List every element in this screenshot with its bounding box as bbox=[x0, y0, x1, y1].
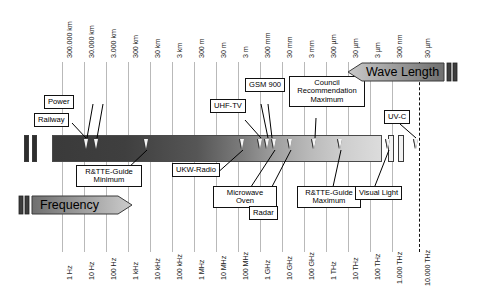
callout-uv-c[interactable]: UV-C bbox=[384, 110, 410, 124]
frequency-tick-label: 10 kHz bbox=[154, 258, 162, 280]
frequency-tick-label: 10 Hz bbox=[88, 262, 96, 280]
wavelength-tick-label: 3.000 km bbox=[110, 29, 118, 58]
bar-pointer-rtte-minimum bbox=[144, 139, 148, 149]
callout-ukw-radio[interactable]: UKW-Radio bbox=[172, 163, 220, 177]
bar-end-cap-left-2 bbox=[32, 135, 37, 162]
wavelength-tick-label: 30.000 km bbox=[88, 25, 96, 58]
frequency-tick-label: 1 MHz bbox=[198, 260, 206, 280]
wavelength-tick-label: 3 µm bbox=[374, 42, 382, 58]
callout-railway[interactable]: Railway bbox=[34, 113, 69, 127]
frequency-tick-label: 10 THz bbox=[352, 258, 360, 280]
frequency-tick-label: 1 THz bbox=[330, 261, 338, 280]
bar-pointer-microwave-oven bbox=[272, 139, 276, 149]
callout-microwave-oven-label: Microwave Oven bbox=[227, 188, 263, 206]
wavelength-tick-label: 30 mm bbox=[286, 37, 294, 58]
callout-visual-light[interactable]: Visual Light bbox=[355, 186, 402, 200]
callout-gsm-900[interactable]: GSM 900 bbox=[245, 78, 285, 92]
wavelength-tick-label: 3 mm bbox=[308, 40, 316, 58]
frequency-tick-label: 100 kHz bbox=[176, 254, 184, 280]
wavelength-tick-label: 30 µm bbox=[352, 38, 360, 58]
callout-power[interactable]: Power bbox=[44, 95, 74, 109]
bar-pointer-ukw-radio bbox=[240, 139, 244, 149]
wavelength-tick-label: 3 km bbox=[176, 43, 184, 58]
callout-rtte-maximum-label: R&TTE-Guide Maximum bbox=[305, 188, 353, 206]
frequency-tick-label: 1.000 THz bbox=[396, 252, 404, 284]
wavelength-tick-label: 300 km bbox=[132, 35, 140, 58]
bar-pointer-rtte-maximum bbox=[338, 139, 342, 149]
wavelength-tick-label: 3 m bbox=[242, 46, 250, 58]
frequency-banner-label: Frequency bbox=[40, 198, 99, 212]
frequency-tick-label: 10.000 THz bbox=[424, 250, 432, 286]
bar-pointer-visual-light bbox=[386, 139, 390, 149]
wavelength-tick-label: 300 nm bbox=[396, 35, 404, 58]
wave-length-banner: Wave Length bbox=[348, 62, 458, 82]
frequency-tick-label: 1 GHz bbox=[264, 260, 272, 280]
bar-end-cap-right-2 bbox=[398, 135, 404, 162]
wavelength-tick-label: 300 m bbox=[198, 39, 206, 58]
bar-end-cap-left-1 bbox=[24, 135, 29, 162]
callout-uhf-tv[interactable]: UHF-TV bbox=[210, 99, 246, 113]
wavelength-tick-label: 30 km bbox=[154, 39, 162, 58]
callout-radar[interactable]: Radar bbox=[249, 206, 278, 220]
frequency-tick-label: 1 kHz bbox=[132, 262, 140, 280]
frequency-tick-label: 10 MHz bbox=[220, 256, 228, 280]
bar-pointer-radar bbox=[288, 139, 292, 149]
wavelength-tick-label: 300 µm bbox=[330, 34, 338, 58]
wavelength-tick-label: 30 µm bbox=[424, 38, 432, 58]
bar-pointer-uhf-tv bbox=[258, 139, 262, 149]
callout-microwave-oven[interactable]: Microwave Oven bbox=[213, 186, 277, 208]
wavelength-tick-label: 300 mm bbox=[264, 33, 272, 58]
callout-rtte-minimum[interactable]: R&TTE-Guide Minimum bbox=[76, 165, 142, 187]
spectrum-bar bbox=[52, 135, 382, 162]
frequency-tick-label: 1 Hz bbox=[66, 266, 74, 280]
bar-pointer-railway bbox=[84, 139, 88, 149]
bar-pointer-power bbox=[94, 139, 98, 149]
frequency-tick-label: 100 THz bbox=[374, 254, 382, 280]
wavelength-tick-label: 30 m bbox=[220, 42, 228, 58]
bar-pointer-gsm-900 bbox=[265, 139, 269, 149]
spectrum-diagram: 300.000 km 30.000 km 3.000 km 300 km 30 … bbox=[0, 0, 484, 286]
bar-pointer-council-recommendation bbox=[312, 139, 316, 149]
frequency-tick-label: 100 GHz bbox=[308, 252, 316, 280]
frequency-tick-label: 10 GHz bbox=[286, 256, 294, 280]
bar-pointer-uv-c bbox=[414, 139, 418, 149]
callout-rtte-minimum-label: R&TTE-Guide Minimum bbox=[85, 167, 133, 185]
callout-rtte-maximum[interactable]: R&TTE-Guide Maximum bbox=[297, 186, 361, 208]
uv-boundary-marker bbox=[419, 62, 420, 252]
frequency-banner: Frequency bbox=[18, 194, 138, 216]
frequency-tick-label: 100 MHz bbox=[242, 252, 250, 280]
wave-length-banner-label: Wave Length bbox=[366, 65, 439, 79]
wavelength-tick-label: 300.000 km bbox=[66, 21, 74, 58]
frequency-tick-label: 100 Hz bbox=[110, 258, 118, 280]
